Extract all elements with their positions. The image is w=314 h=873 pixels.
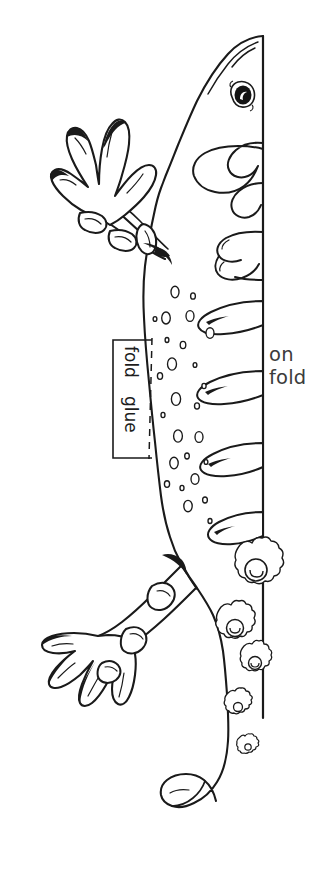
rear-leg-with-claws (42, 565, 196, 706)
fold-label: fold (122, 346, 139, 378)
tail-flower-decorations (216, 537, 284, 753)
on-fold-label: on fold (269, 344, 314, 389)
front-limb-upper (215, 232, 263, 280)
eye (230, 81, 255, 111)
craft-template-page: on fold fold glue (0, 0, 314, 873)
dinosaur-line-art (0, 0, 314, 873)
belly-contours (170, 563, 205, 806)
hip-wedge (162, 554, 186, 574)
glue-label: glue (122, 396, 139, 433)
neck-frills (193, 143, 263, 218)
